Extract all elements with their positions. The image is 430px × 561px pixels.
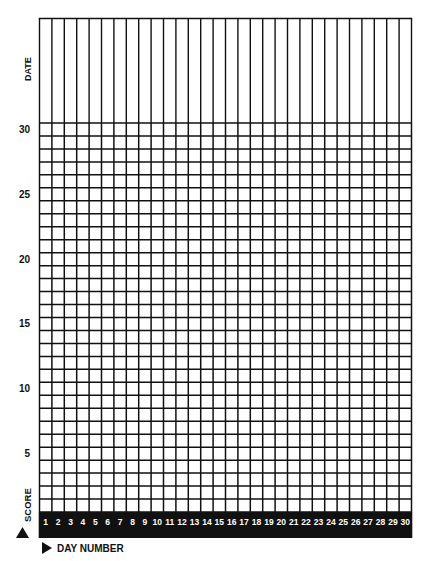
- score-tick-labels: 51015202530: [19, 124, 31, 459]
- score-chart: 1234567891011121314151617181920212223242…: [0, 0, 430, 561]
- day-number-label: 17: [239, 517, 249, 527]
- day-number-label: 28: [376, 517, 386, 527]
- day-number-label: 22: [301, 517, 311, 527]
- day-number-label: 23: [314, 517, 324, 527]
- day-number-label: 26: [351, 517, 361, 527]
- day-number-label: 18: [252, 517, 262, 527]
- day-number-label: 14: [202, 517, 212, 527]
- score-tick-label: 20: [19, 254, 31, 265]
- day-number-label: 5: [93, 517, 98, 527]
- day-number-axis-label: DAY NUMBER: [57, 543, 124, 554]
- day-number-label: 10: [153, 517, 163, 527]
- score-grid: [40, 123, 412, 512]
- day-number-label: 7: [118, 517, 123, 527]
- day-number-label: 21: [289, 517, 299, 527]
- day-number-label: 16: [227, 517, 237, 527]
- day-number-label: 1: [43, 517, 48, 527]
- date-axis-label: DATE: [23, 57, 33, 81]
- date-entry-area: [39, 19, 412, 124]
- day-number-label: 3: [68, 517, 73, 527]
- day-number-label: 11: [165, 517, 174, 527]
- score-tick-label: 5: [24, 448, 30, 459]
- day-number-label: 4: [81, 517, 86, 527]
- day-number-label: 13: [190, 517, 200, 527]
- day-number-label: 20: [277, 517, 287, 527]
- score-axis-label: SCORE: [22, 488, 33, 522]
- score-tick-label: 15: [19, 318, 31, 329]
- day-number-label: 9: [143, 517, 148, 527]
- day-number-label: 19: [264, 517, 274, 527]
- day-number-label: 6: [105, 517, 110, 527]
- day-number-right-arrow-icon: [42, 542, 52, 554]
- day-number-label: 27: [363, 517, 373, 527]
- day-number-label: 2: [56, 517, 61, 527]
- score-tick-label: 25: [19, 189, 31, 200]
- score-tick-label: 10: [19, 383, 31, 394]
- day-number-label: 25: [339, 517, 349, 527]
- day-number-label: 30: [401, 517, 411, 527]
- day-number-label: 15: [215, 517, 225, 527]
- day-number-label: 12: [177, 517, 187, 527]
- score-tick-label: 30: [19, 124, 31, 135]
- day-number-label: 29: [388, 517, 398, 527]
- day-number-label: 8: [130, 517, 135, 527]
- score-up-arrow-icon: [16, 527, 29, 538]
- day-number-label: 24: [326, 517, 336, 527]
